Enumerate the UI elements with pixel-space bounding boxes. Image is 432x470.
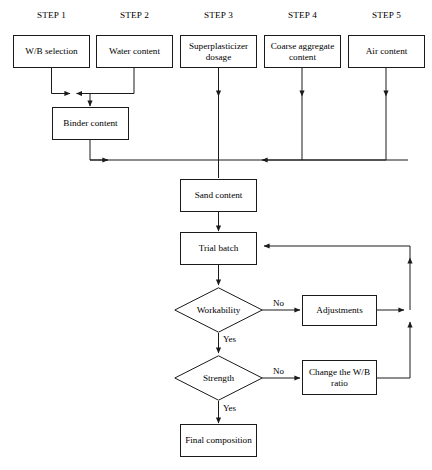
step-label-2: STEP 2 [96,10,173,20]
box-sand-content: Sand content [180,179,257,212]
box-adjustments: Adjustments [302,295,377,326]
edge-label-workability-no: No [272,298,285,308]
step-label-5: STEP 5 [348,10,425,20]
box-water-content: Water content [96,35,173,68]
step-label-3: STEP 3 [180,10,257,20]
box-binder-content: Binder content [52,107,129,140]
decision-strength: Strength [174,355,263,401]
step-label-1: STEP 1 [13,10,90,20]
box-trial-batch: Trial batch [180,232,257,265]
edge-label-workability-yes: Yes [222,334,237,344]
box-superplasticizer-dosage: Superplasticizer dosage [180,35,257,68]
box-coarse-aggregate-content: Coarse aggregate content [264,35,341,68]
box-wb-selection: W/B selection [13,35,90,68]
box-final-composition: Final composition [180,424,257,457]
decision-strength-label: Strength [174,355,263,401]
edge-label-strength-yes: Yes [222,403,237,413]
flowchart-canvas: STEP 1 STEP 2 STEP 3 STEP 4 STEP 5 W/B s… [0,0,432,470]
box-change-wb-ratio: Change the W/B ratio [302,360,377,395]
edge-label-strength-no: No [272,366,285,376]
step-label-4: STEP 4 [264,10,341,20]
box-air-content: Air content [348,35,425,68]
decision-workability: Workability [174,287,263,333]
decision-workability-label: Workability [174,287,263,333]
